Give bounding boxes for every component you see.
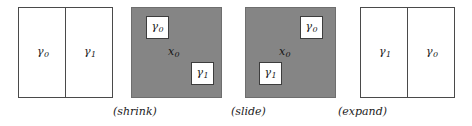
panel-initial-left-label: γ0 xyxy=(37,46,49,59)
panel-slide-inset-gamma1-label: γ1 xyxy=(265,67,277,80)
panel-shrink: γ0 γ1 x0 xyxy=(131,7,222,98)
panel-shrink-inset-gamma1-label: γ1 xyxy=(197,67,209,80)
caption-expand: (expand) xyxy=(338,105,387,118)
panel-final-divider xyxy=(407,8,408,97)
panel-initial: γ0 γ1 xyxy=(18,7,113,98)
panel-initial-right-label: γ1 xyxy=(84,46,96,59)
panel-slide-inset-gamma0: γ0 xyxy=(300,16,323,39)
panel-slide-inset-gamma0-label: γ0 xyxy=(306,21,318,34)
panel-initial-divider xyxy=(65,8,66,97)
panel-final-left-label: γ1 xyxy=(379,46,391,59)
caption-shrink: (shrink) xyxy=(113,105,157,118)
panel-shrink-inset-gamma0-label: γ0 xyxy=(152,21,164,34)
panel-slide-interior-label: x0 xyxy=(279,46,291,59)
panel-shrink-interior-label: x0 xyxy=(168,46,180,59)
panel-shrink-inset-gamma0: γ0 xyxy=(146,16,169,39)
panel-shrink-inset-gamma1: γ1 xyxy=(191,62,214,85)
panel-final-right-label: γ0 xyxy=(426,46,438,59)
panel-slide-inset-gamma1: γ1 xyxy=(259,62,282,85)
figure-root: γ0 γ1 γ0 γ1 x0 γ0 γ1 x0 γ1 γ0 (shrink) (… xyxy=(0,0,472,126)
panel-final: γ1 γ0 xyxy=(360,7,455,98)
panel-slide: γ0 γ1 x0 xyxy=(245,7,336,98)
caption-slide: (slide) xyxy=(231,105,266,118)
